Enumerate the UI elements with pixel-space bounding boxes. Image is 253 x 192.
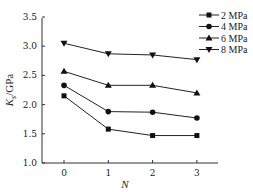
series-group — [61, 41, 201, 138]
square-marker-icon — [207, 13, 212, 18]
legend-label: 8 MPa — [221, 44, 248, 55]
circle-marker-icon — [150, 109, 156, 115]
y-tick-label: 1.5 — [23, 129, 38, 139]
line-chart: 1.01.52.02.53.03.50123NKs/GPa 2 MPa4 MPa… — [0, 0, 253, 192]
y-axis-label: Ks/GPa — [3, 74, 18, 108]
series-line — [64, 71, 197, 93]
y-tick-label: 3.0 — [23, 41, 38, 51]
axes: 1.01.52.02.53.03.50123NKs/GPa — [3, 12, 218, 190]
series-6-mpa — [61, 68, 201, 96]
square-marker-icon — [62, 93, 67, 98]
circle-marker-icon — [206, 24, 212, 30]
legend: 2 MPa4 MPa6 MPa8 MPa — [199, 10, 248, 56]
legend-label: 4 MPa — [221, 21, 248, 32]
square-marker-icon — [106, 127, 111, 132]
x-tick-label: 2 — [150, 168, 156, 178]
square-marker-icon — [150, 133, 155, 138]
triangle-down-marker-icon — [193, 57, 200, 63]
legend-label: 6 MPa — [221, 33, 248, 44]
circle-marker-icon — [106, 109, 112, 115]
legend-item: 6 MPa — [199, 33, 248, 44]
legend-item: 4 MPa — [199, 21, 248, 32]
x-axis-label: N — [120, 178, 129, 190]
x-tick-label: 0 — [61, 168, 67, 178]
triangle-up-marker-icon — [61, 68, 68, 74]
circle-marker-icon — [61, 83, 67, 89]
circle-marker-icon — [194, 115, 200, 121]
legend-item: 2 MPa — [199, 10, 248, 21]
series-4-mpa — [61, 83, 200, 121]
series-8-mpa — [61, 41, 201, 63]
x-tick-label: 1 — [105, 168, 111, 178]
y-tick-label: 2.5 — [23, 70, 38, 80]
y-tick-label: 1.0 — [23, 158, 38, 168]
x-tick-label: 3 — [194, 168, 200, 178]
y-tick-label: 3.5 — [23, 12, 38, 22]
y-tick-label: 2.0 — [23, 100, 38, 110]
legend-label: 2 MPa — [221, 10, 248, 21]
series-line — [64, 43, 197, 59]
square-marker-icon — [194, 133, 199, 138]
series-line — [64, 85, 197, 118]
legend-item: 8 MPa — [199, 44, 248, 55]
